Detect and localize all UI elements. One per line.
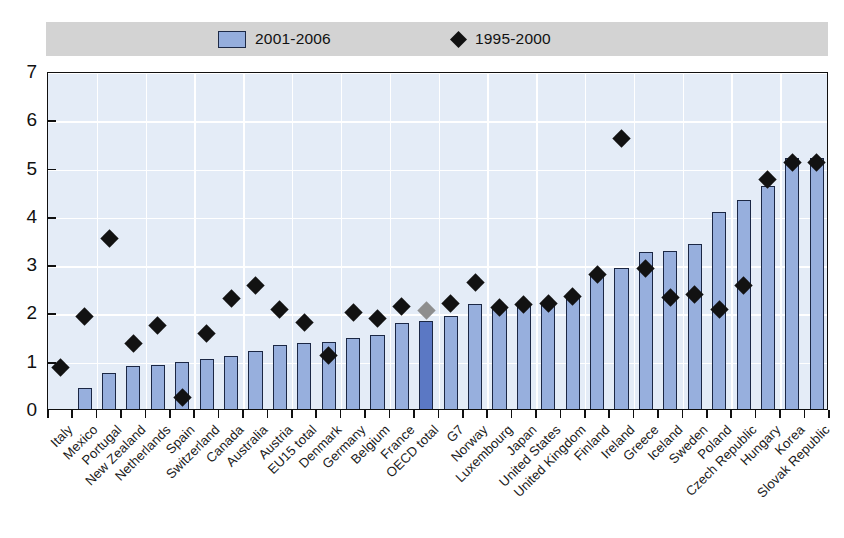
diamond-marker-australia [246,276,264,294]
y-axis-tick-label: 5 [26,158,37,180]
diamond-marker-eu15-total [295,313,313,331]
chart-legend: 2001-2006 1995-2000 [46,22,828,56]
diamond-swatch-icon [450,31,467,48]
bar-luxembourg [492,308,506,410]
bar-germany [346,338,360,410]
bar-united-states [541,303,555,410]
y-axis-tick-mark [47,169,56,171]
bar-mexico [78,388,92,410]
diamond-marker-austria [271,300,289,318]
bar-portugal [102,373,116,410]
legend-label-bars: 2001-2006 [255,30,331,48]
bar-sweden [688,244,702,410]
bar-australia [248,351,262,410]
diamond-marker-belgium [368,310,386,328]
y-axis-tick-label: 3 [26,254,37,276]
diamond-marker-canada [222,289,240,307]
diamond-marker-germany [344,303,362,321]
series-layer [48,73,827,409]
bar-japan [517,305,531,410]
y-axis-tick-mark [47,362,56,364]
bar-hungary [761,186,775,411]
legend-entry-bars: 2001-2006 [218,30,331,48]
diamond-marker-ireland [612,129,630,147]
y-axis-tick-label: 0 [26,399,37,421]
y-axis-tick-mark [47,217,56,219]
diamond-marker-norway [466,273,484,291]
y-axis-tick-mark [47,313,56,315]
bar-g7 [444,316,458,410]
bar-new-zealand [126,366,140,410]
diamond-marker-new-zealand [124,334,142,352]
bar-norway [468,304,482,410]
x-axis-labels: ItalyMexicoPortugalNew ZealandNetherland… [0,410,844,538]
bar-swatch-icon [218,31,246,48]
bar-netherlands [151,365,165,410]
bar-eu15-total [297,343,311,410]
bar-switzerland [200,359,214,410]
bar-finland [590,273,604,410]
legend-label-diamonds: 1995-2000 [475,30,551,48]
bar-czech-republic [737,200,751,411]
bar-ireland [614,268,628,410]
diamond-marker-netherlands [149,316,167,334]
plot-area [47,72,828,410]
y-axis-tick-label: 4 [26,206,37,228]
y-axis-tick-label: 1 [26,351,37,373]
y-axis-tick-label: 2 [26,302,37,324]
diamond-marker-switzerland [197,325,215,343]
legend-entry-diamonds: 1995-2000 [451,30,551,48]
diamond-marker-portugal [100,229,118,247]
bar-korea [785,158,799,411]
diamond-marker-oecd-total [417,301,435,319]
bar-belgium [370,335,384,410]
bar-slovak-republic [810,158,824,411]
y-axis-tick-label: 7 [26,61,37,83]
diamond-marker-france [393,297,411,315]
y-axis-tick-mark [47,120,56,122]
bar-canada [224,356,238,410]
diamond-marker-mexico [75,308,93,326]
y-axis-tick-label: 6 [26,109,37,131]
bar-austria [273,345,287,410]
bar-oecd-total [419,321,433,410]
diamond-marker-g7 [442,294,460,312]
y-axis-tick-mark [47,265,56,267]
chart-figure: 2001-2006 1995-2000 ItalyMexicoPortugalN… [0,0,844,538]
bar-france [395,323,409,410]
bar-united-kingdom [566,298,580,410]
bar-iceland [663,251,677,410]
